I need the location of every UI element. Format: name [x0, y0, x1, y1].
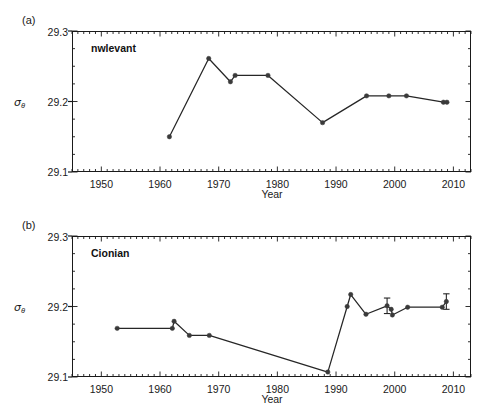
- y-tick-label-a-2: 29.3: [28, 26, 68, 38]
- chart-panel-b: (b) σθ 29.3 29.2 29.1 Cionian Year 19501…: [0, 205, 492, 417]
- x-tick-label-b-4: 1990: [306, 383, 366, 395]
- x-tick-label-a-0: 1950: [71, 178, 131, 190]
- series-label-a: nwlevant: [91, 42, 136, 54]
- x-tick-label-b-1: 1960: [130, 383, 190, 395]
- theta-subscript-a: θ: [21, 101, 25, 110]
- plot-area-b: Cionian: [72, 236, 471, 377]
- x-tick-label-b-0: 1950: [71, 383, 131, 395]
- y-axis-label-a: σθ: [14, 96, 25, 110]
- x-tick-label-b-6: 2010: [423, 383, 483, 395]
- x-tick-label-b-2: 1970: [189, 383, 249, 395]
- x-tick-label-a-2: 1970: [189, 178, 249, 190]
- x-tick-label-a-3: 1980: [247, 178, 307, 190]
- x-tick-label-a-5: 2000: [365, 178, 425, 190]
- y-tick-label-b-2: 29.3: [28, 231, 68, 243]
- x-tick-label-b-3: 1980: [247, 383, 307, 395]
- y-tick-label-b-1: 29.2: [28, 301, 68, 313]
- series-label-b: Cionian: [91, 247, 130, 259]
- x-tick-label-b-5: 2000: [365, 383, 425, 395]
- x-tick-label-a-6: 2010: [423, 178, 483, 190]
- x-tick-label-a-4: 1990: [306, 178, 366, 190]
- y-axis-label-b: σθ: [14, 301, 25, 315]
- chart-panel-a: (a) σθ 29.3 29.2 29.1 nwlevant Year 1950…: [0, 0, 492, 208]
- y-tick-label-b-0: 29.1: [28, 371, 68, 383]
- theta-subscript-b: θ: [21, 306, 25, 315]
- y-tick-label-a-1: 29.2: [28, 96, 68, 108]
- y-tick-label-a-0: 29.1: [28, 166, 68, 178]
- plot-area-a: nwlevant: [72, 31, 471, 172]
- sigma-symbol-b: σ: [14, 301, 21, 314]
- sigma-symbol-a: σ: [14, 96, 21, 109]
- panel-tag-b: (b): [22, 219, 35, 231]
- panel-tag-a: (a): [22, 14, 35, 26]
- x-tick-label-a-1: 1960: [130, 178, 190, 190]
